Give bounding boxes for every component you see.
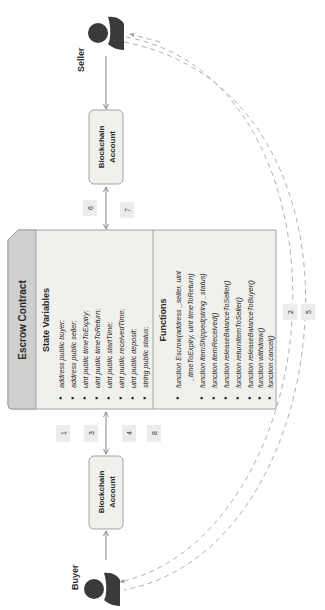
svg-text:uint public receivedTime;: uint public receivedTime;	[117, 309, 126, 388]
state-variable-item: uint public timeToReturn;	[93, 309, 102, 399]
state-variable-item: address public buyer;	[57, 320, 66, 400]
seller-actor: Seller	[76, 17, 124, 72]
step-badge-5: 5	[301, 304, 315, 320]
state-variable-item: uint public timeToExpiry;	[81, 310, 90, 399]
svg-text:uint public deposit;: uint public deposit;	[129, 328, 138, 388]
buyer-label: Buyer	[70, 564, 80, 590]
state-variables-heading: State Variables	[41, 288, 51, 352]
svg-text:address public seller;: address public seller;	[69, 320, 78, 388]
svg-text:function returnItemToSeller(): function returnItemToSeller()	[234, 297, 243, 388]
buyer-blockchain-account: Blockchain Account	[89, 456, 123, 529]
dashed-arc-to-seller-head	[130, 34, 160, 42]
state-variable-item: uint public receivedTime;	[117, 309, 126, 400]
svg-text:8: 8	[151, 431, 158, 435]
function-item: function itemReceived()	[210, 312, 219, 399]
buyer-account-line2: Account	[108, 476, 117, 508]
seller-account-line1: Blockchain	[97, 126, 106, 169]
state-variable-item: address public seller;	[69, 320, 78, 399]
svg-text:uint public timeToReturn;: uint public timeToReturn;	[93, 309, 102, 388]
svg-text:function itemReceived(): function itemReceived()	[210, 312, 219, 388]
functions-heading: Functions	[158, 299, 168, 342]
function-item: function withdraw()	[256, 328, 265, 400]
step-badge-7: 7	[120, 202, 134, 218]
svg-text:5: 5	[305, 310, 312, 314]
step-badge-2: 2	[283, 304, 297, 320]
svg-text:4: 4	[126, 431, 133, 435]
svg-text:function releaseBalanceToBuyer: function releaseBalanceToBuyer()	[246, 280, 255, 388]
step-badge-8: 8	[147, 425, 161, 442]
seller-account-line2: Account	[108, 131, 117, 163]
buyer-account-line1: Blockchain	[97, 471, 106, 514]
svg-text:7: 7	[124, 208, 131, 212]
step-badge-3: 3	[84, 425, 98, 442]
seller-label: Seller	[76, 47, 86, 72]
svg-text:2: 2	[287, 310, 294, 314]
function-item: function releaseBalanceToBuyer()	[246, 280, 255, 399]
step-badge-4: 4	[122, 425, 136, 442]
escrow-contract: Escrow Contract State Variables address …	[8, 230, 276, 409]
svg-text:uint public startTime;: uint public startTime;	[105, 322, 114, 388]
svg-text:string public status;: string public status;	[141, 326, 150, 388]
svg-text:function itemShipped(string _s: function itemShipped(string _status)	[198, 273, 207, 388]
person-icon	[84, 573, 120, 606]
function-item: function itemShipped(string _status)	[198, 273, 207, 399]
escrow-diagram: Seller Blockchain Account 6 7 Escrow Con…	[0, 0, 325, 610]
function-item: function releaseBalanceToSeller()	[222, 280, 231, 399]
seller-blockchain-account: Blockchain Account	[89, 110, 123, 184]
svg-text:3: 3	[88, 431, 95, 435]
svg-text:function cancel(): function cancel()	[266, 335, 275, 388]
svg-text:_timeToExpiry, uint timeToRetu: _timeToExpiry, uint timeToReturn)	[186, 273, 195, 382]
svg-text:uint public timeToExpiry;: uint public timeToExpiry;	[81, 310, 90, 388]
contract-title: Escrow Contract	[17, 280, 28, 360]
step-badge-6: 6	[83, 200, 97, 216]
buyer-actor: Buyer	[70, 564, 120, 606]
person-icon	[88, 17, 124, 50]
svg-text:1: 1	[60, 431, 67, 435]
state-variable-item: uint public startTime;	[105, 322, 114, 399]
svg-text:function withdraw(): function withdraw()	[256, 328, 265, 388]
svg-text:address public buyer;: address public buyer;	[57, 320, 66, 388]
state-variable-item: string public status;	[141, 326, 150, 399]
state-variable-item: uint public deposit;	[129, 328, 138, 399]
step-badge-1: 1	[56, 425, 70, 442]
svg-text:6: 6	[87, 206, 94, 210]
svg-text:function releaseBalanceToSelle: function releaseBalanceToSeller()	[222, 280, 231, 388]
function-item: function returnItemToSeller()	[234, 297, 243, 399]
svg-text:function Escrow(address _selle: function Escrow(address _seller, uint	[174, 270, 183, 388]
